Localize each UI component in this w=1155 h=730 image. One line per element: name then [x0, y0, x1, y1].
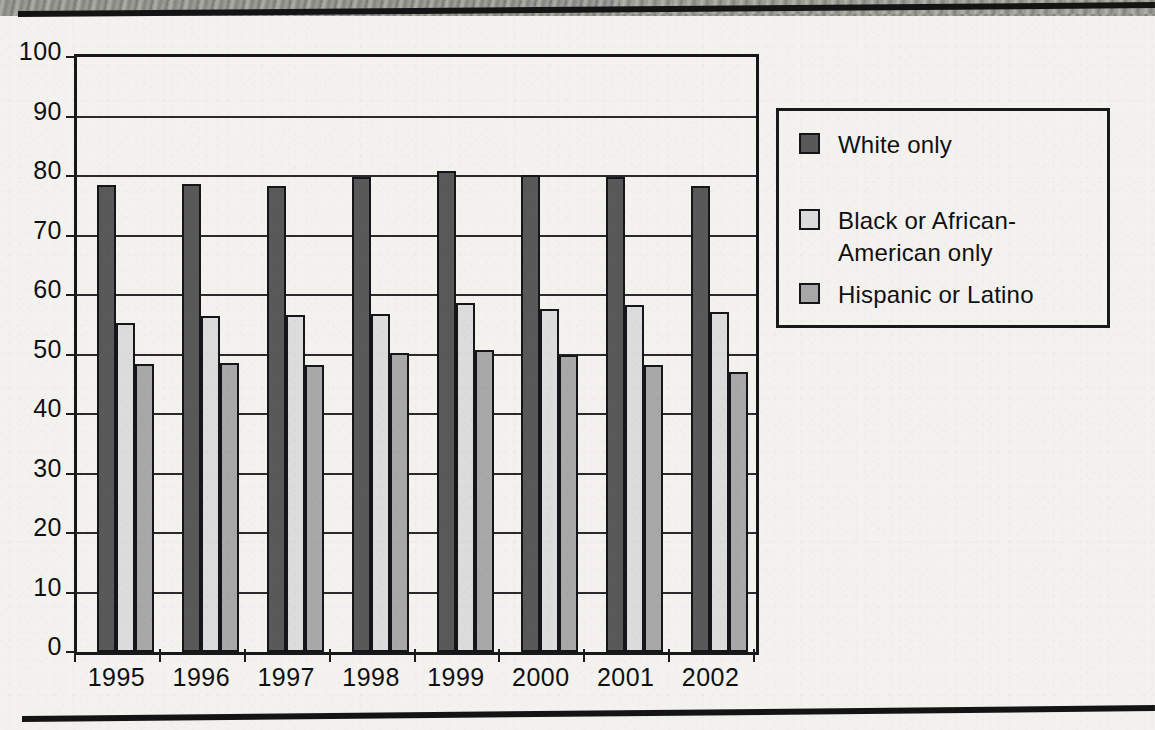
y-axis-tick-label: 90	[6, 97, 62, 126]
x-axis-tick	[244, 649, 246, 662]
y-axis-tick-label: 10	[6, 573, 62, 602]
bar	[390, 353, 409, 652]
y-axis-tick-label: 70	[6, 216, 62, 245]
y-axis-tick	[66, 56, 77, 58]
x-axis-tick-label: 2001	[584, 663, 668, 692]
bar	[182, 184, 201, 652]
bar	[220, 363, 239, 652]
bar	[456, 303, 475, 652]
bar-group	[97, 57, 154, 652]
bar	[625, 305, 644, 652]
plot-area	[74, 54, 759, 655]
y-axis-tick-label: 20	[6, 513, 62, 542]
y-axis-tick	[66, 413, 77, 415]
bar	[352, 177, 371, 652]
bar	[305, 365, 324, 652]
legend-swatch-icon	[799, 209, 820, 230]
y-axis-tick	[66, 116, 77, 118]
bar	[540, 309, 559, 652]
bar	[437, 171, 456, 652]
y-axis-tick	[66, 473, 77, 475]
x-axis-tick-label: 2000	[499, 663, 583, 692]
bar-groups	[77, 57, 756, 652]
x-axis-tick	[753, 649, 755, 662]
bar	[644, 365, 663, 652]
bar-group	[437, 57, 494, 652]
y-axis-tick-label: 80	[6, 156, 62, 185]
bar-group	[182, 57, 239, 652]
bar	[371, 314, 390, 652]
y-axis-tick-label: 50	[6, 335, 62, 364]
x-axis-tick-label: 1995	[74, 663, 158, 692]
bar	[97, 185, 116, 652]
x-axis-tick	[498, 649, 500, 662]
bar	[286, 315, 305, 652]
bar	[135, 364, 154, 652]
bar-chart: 0102030405060708090100 19951996199719981…	[0, 0, 1155, 730]
bar	[729, 372, 748, 652]
bar	[201, 316, 220, 652]
x-axis-tick-label: 1999	[414, 663, 498, 692]
bar-group	[691, 57, 748, 652]
bar	[521, 175, 540, 652]
legend-label: Hispanic or Latino	[838, 279, 1034, 311]
y-axis-tick	[66, 235, 77, 237]
x-axis-labels: 19951996199719981999200020012002	[74, 663, 759, 699]
y-axis-tick-label: 0	[6, 632, 62, 661]
chart-legend: White onlyBlack or African-American only…	[776, 108, 1110, 328]
legend-item: Black or African-American only	[799, 205, 1096, 269]
y-axis-tick	[66, 532, 77, 534]
bar	[691, 186, 710, 652]
bar	[606, 177, 625, 652]
scanned-page: 0102030405060708090100 19951996199719981…	[0, 0, 1155, 730]
legend-label: Black or African-American only	[838, 205, 1096, 269]
bar	[559, 355, 578, 653]
x-axis-tick	[159, 649, 161, 662]
legend-item: White only	[799, 129, 952, 161]
y-axis-tick	[66, 175, 77, 177]
legend-swatch-icon	[799, 133, 820, 154]
bar-group	[606, 57, 663, 652]
x-axis-tick	[583, 649, 585, 662]
x-axis-tick-label: 2002	[669, 663, 753, 692]
x-axis-tick	[329, 649, 331, 662]
x-axis-tick	[74, 649, 76, 662]
y-axis-tick-label: 30	[6, 454, 62, 483]
x-axis-ticks	[74, 649, 759, 663]
legend-swatch-icon	[799, 283, 820, 304]
x-axis-tick-label: 1998	[329, 663, 413, 692]
x-axis-tick-label: 1996	[159, 663, 243, 692]
y-axis-tick-label: 60	[6, 275, 62, 304]
y-axis-labels: 0102030405060708090100	[0, 54, 62, 649]
y-axis-tick	[66, 592, 77, 594]
bar	[116, 323, 135, 652]
legend-label: White only	[838, 129, 952, 161]
y-axis-tick	[66, 294, 77, 296]
bar	[267, 186, 286, 652]
y-axis-tick	[66, 354, 77, 356]
bar-group	[521, 57, 578, 652]
x-axis-tick	[414, 649, 416, 662]
bar	[710, 312, 729, 652]
legend-item: Hispanic or Latino	[799, 279, 1034, 311]
x-axis-tick	[668, 649, 670, 662]
y-axis-tick-label: 40	[6, 394, 62, 423]
bar-group	[267, 57, 324, 652]
bar-group	[352, 57, 409, 652]
y-axis-tick-label: 100	[6, 37, 62, 66]
x-axis-tick-label: 1997	[244, 663, 328, 692]
bar	[475, 350, 494, 652]
